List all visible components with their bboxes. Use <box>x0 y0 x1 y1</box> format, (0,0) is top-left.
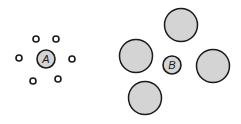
group-a-small-surround: A <box>16 36 75 84</box>
center-label-b: B <box>168 59 175 71</box>
surrounding-circle <box>129 82 162 115</box>
surrounding-circle <box>69 56 75 62</box>
surrounding-circle <box>30 78 36 84</box>
surrounding-circle <box>53 36 59 42</box>
surrounding-circle <box>33 36 39 42</box>
group-b-large-surround: B <box>120 9 230 115</box>
center-label-a: A <box>41 53 49 65</box>
ebbinghaus-diagram: A B <box>0 0 241 124</box>
surrounding-circle <box>120 40 153 73</box>
surrounding-circle <box>16 55 22 61</box>
surrounding-circle <box>197 50 230 83</box>
surrounding-circle <box>55 76 61 82</box>
surrounding-circle <box>165 9 198 42</box>
